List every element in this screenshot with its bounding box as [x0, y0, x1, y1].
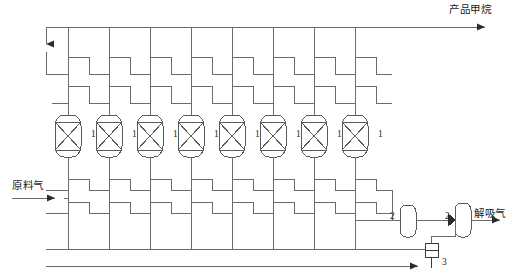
buffer-tank-2a [400, 205, 416, 237]
bottom-header-line [46, 213, 425, 249]
adsorber-tag-7: 1 [337, 130, 342, 140]
adsorber-tag-3: 1 [173, 130, 178, 140]
stream-label-desorption: 解吸气 [474, 208, 506, 219]
adsorber-tag-4: 1 [214, 130, 219, 140]
feed-gas-line [12, 190, 68, 198]
upper-manifold-row-b [68, 86, 392, 103]
vacuum-pump-line [46, 220, 455, 266]
vacuum-pump-tag: 3 [442, 258, 447, 268]
stream-label-feed: 原料气 [12, 180, 44, 191]
vacuum-pump-3 [425, 243, 438, 268]
upper-manifold-left-stubs [46, 74, 68, 103]
left-riser [46, 27, 68, 74]
buffer-tank-2b [455, 203, 471, 237]
adsorber-tag-1: 1 [91, 130, 96, 140]
adsorber-tag-8: 1 [378, 130, 383, 140]
adsorber-tag-5: 1 [255, 130, 260, 140]
buffer-tank-tag-a: 2 [390, 212, 395, 222]
process-flow-diagram: 产品甲烷 原料气 解吸气 1 1 1 1 1 1 1 1 2 2 3 [0, 0, 514, 276]
adsorber-vessels [55, 115, 368, 157]
adsorber-tag-6: 1 [296, 130, 301, 140]
lower-manifold-row-b [68, 202, 392, 213]
stream-label-product: 产品甲烷 [449, 4, 491, 15]
upper-manifold-row-a [68, 57, 392, 74]
adsorber-tag-2: 1 [132, 130, 137, 140]
lower-manifold-row-a [68, 179, 392, 190]
buffer-tank-tag-b: 2 [445, 212, 450, 222]
